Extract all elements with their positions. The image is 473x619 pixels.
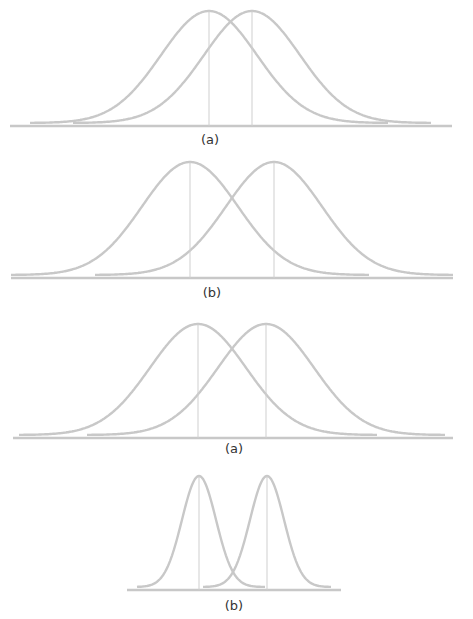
panel-3-caption: (a) <box>225 441 243 456</box>
panel-1-caption: (a) <box>201 132 219 147</box>
panel-1: (a) <box>10 11 452 147</box>
panel-2-caption: (b) <box>203 285 221 300</box>
normal-distributions-figure: (a) (b) (a) (b) <box>0 0 473 619</box>
panel-4: (b) <box>127 476 341 613</box>
panel-3: (a) <box>13 324 453 456</box>
panel-2: (b) <box>11 162 453 300</box>
panel-4-caption: (b) <box>225 598 243 613</box>
